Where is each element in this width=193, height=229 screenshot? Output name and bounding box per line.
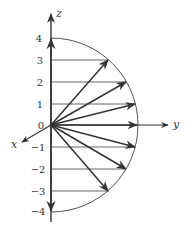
tick-label-m4: −4	[31, 206, 46, 217]
tick-label-4: 4	[36, 33, 42, 44]
tick-label-m2: −2	[31, 164, 46, 175]
x-axis	[22, 125, 51, 142]
vector-z1	[51, 104, 135, 125]
tick-label-1: 1	[37, 99, 43, 110]
angular-momentum-diagram: 4 3 2 1 0 −1 −2 −3 −4 z y x	[0, 0, 193, 229]
tick-label-2: 2	[37, 77, 43, 88]
vector-zm1	[51, 125, 135, 147]
tick-label-m1: −1	[31, 142, 46, 153]
tick-label-3: 3	[37, 55, 43, 66]
tick-label-0: 0	[38, 120, 44, 131]
z-axis-label: z	[55, 7, 62, 20]
y-axis-label: y	[172, 118, 180, 131]
vector-z3	[51, 60, 108, 125]
vector-zm3	[51, 125, 108, 191]
x-axis-label: x	[11, 138, 18, 151]
vector-z2	[51, 82, 126, 125]
tick-label-m3: −3	[31, 186, 46, 197]
